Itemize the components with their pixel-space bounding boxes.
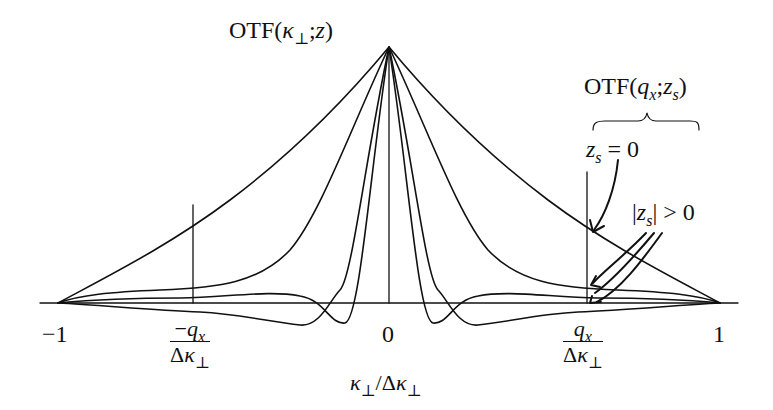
zs-zero-var: z — [586, 136, 595, 162]
neg-qx-minus: − — [175, 316, 187, 341]
annotation-zs-zero: zs = 0 — [586, 137, 639, 161]
brace — [593, 113, 699, 130]
tick-one: 1 — [713, 322, 725, 346]
xlabel-delta: Δ — [382, 370, 396, 395]
xlabel-var2: κ — [396, 370, 407, 395]
neg-qx-den-var: κ — [184, 342, 195, 367]
annotation-zs-nonzero: |zs| > 0 — [632, 200, 695, 224]
tick-pos-qx: qx Δκ⊥ — [563, 318, 603, 366]
arrow-zs-zero — [594, 160, 618, 230]
x-axis-label: κ⊥/Δκ⊥ — [350, 372, 422, 394]
pos-qx-den-sub: ⊥ — [588, 354, 603, 371]
title-right-suffix: ) — [679, 73, 687, 99]
xlabel-var1: κ — [350, 370, 361, 395]
title-otf-qx: OTF(qx;zs) — [584, 74, 687, 98]
title-right-var1: q — [637, 73, 649, 99]
pos-qx-sub: x — [585, 328, 592, 345]
zs-nonzero-var: z — [637, 199, 646, 225]
title-left-prefix: OTF( — [229, 17, 282, 43]
zs-zero-rest: = 0 — [602, 136, 640, 162]
tick-zero: 0 — [382, 322, 394, 346]
title-otf-kappa: OTF(κ⊥;z) — [229, 18, 333, 42]
pos-qx-var: q — [574, 316, 585, 341]
zs-nonzero-sub: s — [646, 212, 652, 229]
title-left-suffix: ) — [325, 17, 333, 43]
title-left-sep: ; — [309, 17, 316, 43]
tick-minus-one: −1 — [42, 322, 68, 346]
title-right-var1-sub: x — [649, 86, 656, 103]
pos-qx-den-delta: Δ — [563, 342, 577, 367]
title-left-var1: κ — [282, 17, 294, 43]
title-left-var2: z — [316, 17, 325, 43]
zs-nonzero-rest: > 0 — [657, 199, 695, 225]
neg-qx-sub: x — [198, 328, 205, 345]
title-right-var2-sub: s — [672, 86, 678, 103]
neg-qx-den-sub: ⊥ — [195, 354, 210, 371]
title-right-prefix: OTF( — [584, 73, 637, 99]
xlabel-sub2: ⊥ — [406, 382, 421, 399]
xlabel-sub1: ⊥ — [361, 382, 376, 399]
pos-qx-den-var: κ — [577, 342, 588, 367]
neg-qx-var: q — [187, 316, 198, 341]
tick-neg-qx: −qx Δκ⊥ — [170, 318, 210, 366]
title-left-var1-sub: ⊥ — [294, 30, 309, 47]
neg-qx-den-delta: Δ — [170, 342, 184, 367]
zs-zero-sub: s — [595, 149, 601, 166]
